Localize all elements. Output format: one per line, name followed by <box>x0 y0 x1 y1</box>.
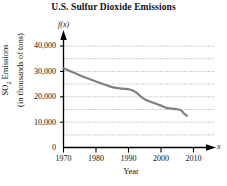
x-axis-arrowhead <box>206 144 216 150</box>
y-axis <box>60 30 66 148</box>
y-axis-title-main: SO2 Emissions <box>0 45 10 96</box>
data-series-line <box>64 68 188 115</box>
xtick-label-1980: 1980 <box>79 154 113 163</box>
ytick-label-0: 0 <box>16 143 56 152</box>
x-tick-marks <box>64 148 194 153</box>
gridlines <box>64 46 214 135</box>
xtick-label-2010: 2010 <box>177 154 211 163</box>
y-axis-title-line1: SO2 Emissions <box>0 10 15 130</box>
y-axis-title-line2: (in thousands of tons) <box>15 10 26 130</box>
chart-figure: U.S. Sulfur Dioxide Emissions f(x) x <box>0 0 227 186</box>
xtick-label-1990: 1990 <box>112 154 146 163</box>
y-axis-title: SO2 Emissions (in thousands of tons) <box>0 10 34 130</box>
y-axis-arrowhead <box>60 30 66 40</box>
xtick-label-2000: 2000 <box>144 154 178 163</box>
xtick-label-1970: 1970 <box>47 154 81 163</box>
x-axis-title: Year <box>56 166 206 176</box>
